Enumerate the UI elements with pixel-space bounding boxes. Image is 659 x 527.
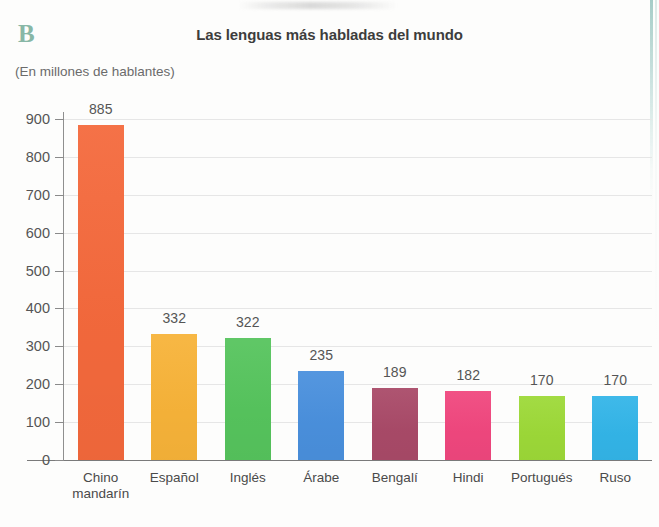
bar-value-label: 182	[428, 367, 508, 383]
gridline	[64, 233, 652, 234]
bar	[225, 338, 271, 460]
y-axis-tick-mark	[55, 233, 64, 234]
bar-value-label: 235	[281, 347, 361, 363]
page-edge-strip-secondary	[655, 0, 657, 527]
plot-area	[64, 119, 652, 460]
chart-subtitle: (En millones de hablantes)	[15, 64, 175, 79]
bar	[372, 388, 418, 460]
bar	[445, 391, 491, 460]
y-axis-tick-label: 600	[0, 225, 50, 241]
bar-value-label: 332	[134, 310, 214, 326]
y-axis-tick-mark	[55, 119, 64, 120]
x-axis-line	[27, 460, 652, 461]
y-axis-tick-mark	[55, 195, 64, 196]
bar-value-label: 189	[355, 364, 435, 380]
bar-value-label: 170	[502, 372, 582, 388]
y-axis-tick-label: 200	[0, 376, 50, 392]
bar	[592, 396, 638, 460]
bar-value-label: 885	[61, 101, 141, 117]
bar	[78, 125, 124, 460]
scan-artifact-smudge	[238, 2, 398, 9]
bar	[151, 334, 197, 460]
y-axis-tick-label: 700	[0, 187, 50, 203]
bar-value-label: 170	[575, 372, 655, 388]
y-axis-tick-label: 900	[0, 111, 50, 127]
y-axis-tick-label: 400	[0, 300, 50, 316]
gridline	[64, 195, 652, 196]
y-axis-tick-mark	[55, 422, 64, 423]
y-axis-tick-label: 300	[0, 338, 50, 354]
y-axis-tick-mark	[55, 384, 64, 385]
gridline	[64, 119, 652, 120]
bar-value-label: 322	[208, 314, 288, 330]
x-axis-category-label: Ruso	[570, 470, 659, 486]
y-axis-tick-label: 0	[0, 452, 50, 468]
y-axis-tick-mark	[55, 308, 64, 309]
y-axis-tick-mark	[55, 157, 64, 158]
y-axis-tick-label: 500	[0, 263, 50, 279]
chart-page: B Las lenguas más habladas del mundo (En…	[0, 0, 659, 527]
bar	[519, 396, 565, 460]
y-axis-tick-label: 800	[0, 149, 50, 165]
y-axis-tick-label: 100	[0, 414, 50, 430]
y-axis-tick-mark	[55, 271, 64, 272]
chart-title: Las lenguas más habladas del mundo	[0, 26, 659, 43]
bar	[298, 371, 344, 460]
y-axis-tick-mark	[55, 346, 64, 347]
gridline	[64, 157, 652, 158]
y-axis-tick-mark	[55, 460, 64, 461]
gridline	[64, 271, 652, 272]
